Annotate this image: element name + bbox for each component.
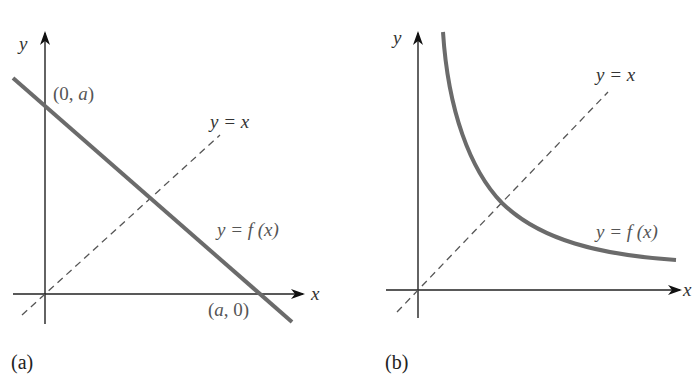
panel-a-y-axis-label: y: [19, 34, 27, 53]
panel-a-x-axis-label: x: [311, 284, 319, 303]
panel-a-y-intercept-label: (0, a): [53, 84, 94, 103]
panel-b-graph: [386, 32, 680, 318]
panel-a-graph: [13, 33, 303, 324]
panel-b-diagonal-label: y = x: [596, 65, 635, 84]
panel-a-caption: (a): [11, 351, 33, 374]
panel-a-diagonal-dashed: [22, 135, 220, 315]
panel-b-function-label: y = f (x): [596, 222, 658, 241]
panel-a-x-intercept-label: (a, 0): [208, 300, 249, 319]
panel-a-diagonal-label: y = x: [210, 112, 249, 131]
panel-b-x-axis-label: x: [683, 280, 691, 299]
panel-a-function-label: y = f (x): [217, 220, 279, 239]
panel-b-caption: (b): [385, 351, 408, 374]
panel-a-function-line: [13, 78, 292, 322]
figure-canvas: [0, 0, 696, 381]
panel-b-y-axis-label: y: [393, 28, 401, 47]
